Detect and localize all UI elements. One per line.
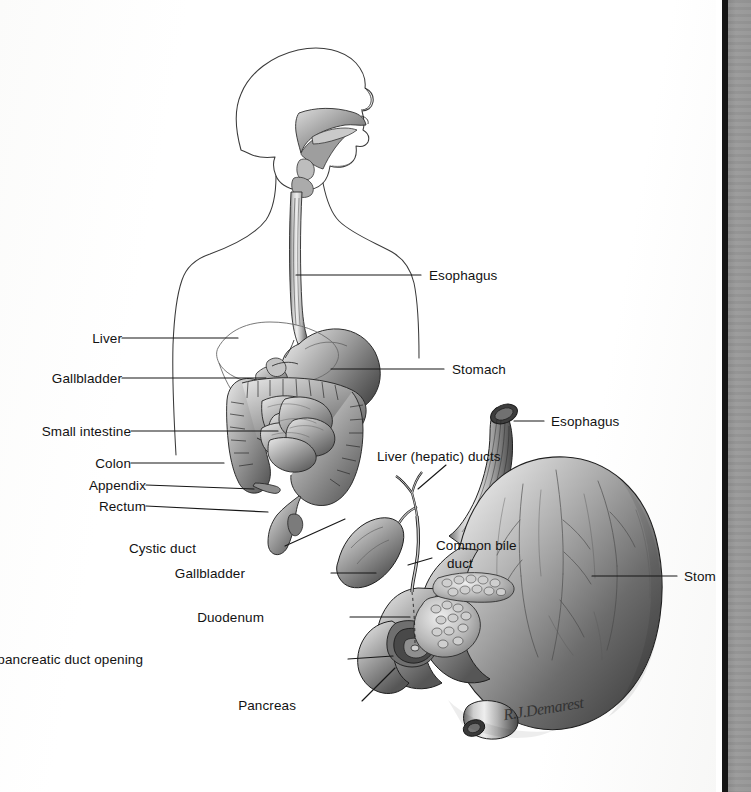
book-gutter-gray bbox=[728, 0, 751, 792]
figure-caption bbox=[0, 784, 723, 792]
label-bile-pancreatic-duct-opening: Bile/pancreatic duct opening bbox=[0, 652, 143, 668]
label-gallbladder: Gallbladder bbox=[18, 371, 122, 387]
label-common-bile-duct-line2: duct bbox=[447, 556, 473, 572]
leader-lines-overview bbox=[122, 275, 444, 512]
leader-rectum bbox=[146, 506, 268, 512]
label-gallbladder-detail: Gallbladder bbox=[155, 566, 245, 582]
scanned-page: Esophagus Liver Stomach Gallbladder Smal… bbox=[0, 0, 751, 792]
label-liver: Liver bbox=[46, 331, 122, 347]
leader-lines bbox=[0, 0, 723, 792]
label-pancreas: Pancreas bbox=[206, 698, 296, 714]
leader-bile-pancreatic-opening bbox=[348, 656, 393, 659]
label-cystic-duct: Cystic duct bbox=[106, 541, 196, 557]
leader-liver-hepatic-ducts bbox=[418, 465, 446, 489]
label-common-bile-duct-line1: Common bile bbox=[436, 538, 517, 554]
label-esophagus-detail: Esophagus bbox=[551, 414, 619, 430]
label-rectum: Rectum bbox=[46, 499, 146, 515]
leader-common-bile-duct bbox=[408, 558, 432, 565]
label-liver-hepatic-ducts: Liver (hepatic) ducts bbox=[377, 449, 501, 465]
leader-cystic-duct bbox=[285, 519, 345, 546]
label-duodenum: Duodenum bbox=[174, 610, 264, 626]
leader-appendix bbox=[146, 485, 254, 489]
label-esophagus: Esophagus bbox=[429, 268, 497, 284]
label-small-intestine: Small intestine bbox=[11, 424, 131, 440]
label-appendix: Appendix bbox=[46, 478, 146, 494]
leader-pancreas bbox=[362, 668, 395, 701]
label-stomach: Stomach bbox=[452, 362, 506, 378]
label-colon: Colon bbox=[31, 456, 131, 472]
